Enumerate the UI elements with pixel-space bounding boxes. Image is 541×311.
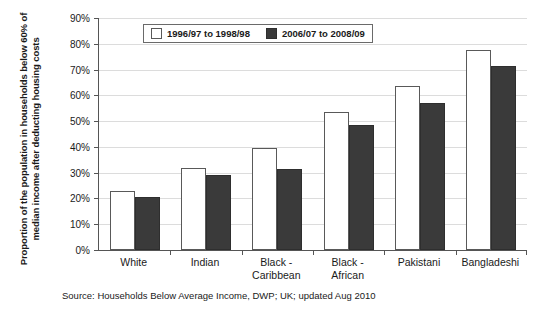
legend-item: 1996/97 to 1998/98: [151, 28, 250, 39]
y-axis-tick-label: 60%: [70, 90, 90, 101]
bar-group: [170, 18, 241, 250]
legend-label: 2006/07 to 2008/09: [282, 28, 365, 39]
source-note: Source: Households Below Average Income,…: [62, 290, 376, 301]
x-axis-tick-label: Pakistani: [383, 256, 454, 282]
y-axis-tick-label: 90%: [70, 13, 90, 24]
y-axis-tick-mark: [94, 250, 99, 251]
y-axis-tick-labels: 90%80%70%60%50%40%30%20%10%0%: [58, 18, 94, 250]
x-axis-tick-label: Black - Caribbean: [241, 256, 312, 282]
y-axis-tick-label: 50%: [70, 116, 90, 127]
bar-group: [456, 18, 527, 250]
x-axis-tick-label: Indian: [169, 256, 240, 282]
x-axis-tick-mark: [384, 250, 385, 255]
bar-group: [313, 18, 384, 250]
bar: [395, 86, 420, 250]
bar-group: [242, 18, 313, 250]
bar: [181, 168, 206, 250]
plot-area: [98, 18, 527, 251]
legend-item: 2006/07 to 2008/09: [266, 28, 365, 39]
bar: [135, 197, 160, 250]
y-axis-tick-label: 80%: [70, 38, 90, 49]
bar-group: [99, 18, 170, 250]
bar: [420, 103, 445, 250]
y-axis-tick-label: 30%: [70, 167, 90, 178]
chart-legend: 1996/97 to 1998/982006/07 to 2008/09: [143, 24, 373, 43]
x-axis-tick-label: Bangladeshi: [455, 256, 526, 282]
legend-swatch-dark-icon: [266, 28, 277, 39]
bar-chart-figure: Proportion of the population in househol…: [0, 0, 541, 311]
bar-group: [384, 18, 455, 250]
x-axis-tick-mark: [313, 250, 314, 255]
bar: [110, 191, 135, 250]
x-axis-tick-mark: [456, 250, 457, 255]
bar: [277, 169, 302, 250]
y-axis-tick-label: 70%: [70, 64, 90, 75]
bar: [349, 125, 374, 250]
bar: [252, 148, 277, 250]
bar: [466, 50, 491, 250]
x-axis-tick-label: White: [98, 256, 169, 282]
y-axis-tick-label: 10%: [70, 219, 90, 230]
x-axis-tick-label: Black - African: [312, 256, 383, 282]
x-axis-tick-mark: [170, 250, 171, 255]
x-axis-tick-mark: [526, 250, 527, 255]
bar: [324, 112, 349, 250]
legend-label: 1996/97 to 1998/98: [167, 28, 250, 39]
x-axis-tick-labels: WhiteIndianBlack - CaribbeanBlack - Afri…: [98, 256, 526, 282]
bar: [206, 175, 231, 250]
y-axis-title: Proportion of the population in househol…: [4, 8, 56, 270]
x-axis-tick-mark: [242, 250, 243, 255]
bar: [491, 66, 516, 250]
y-axis-tick-label: 20%: [70, 193, 90, 204]
bars-layer: [99, 18, 527, 250]
legend-swatch-white-icon: [151, 28, 162, 39]
y-axis-tick-label: 40%: [70, 141, 90, 152]
y-axis-tick-label: 0%: [76, 245, 90, 256]
